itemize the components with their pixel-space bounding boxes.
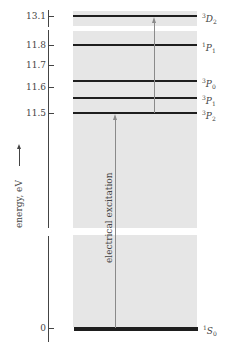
panel-bottom-section <box>73 235 197 327</box>
upper-transition-arrow-head-icon <box>152 17 156 23</box>
level-3P0 <box>73 80 197 82</box>
upper-transition-arrow-shaft <box>154 22 155 113</box>
energy-axis-bottom-segment <box>48 236 49 342</box>
level-label-3P2: 3P2 <box>202 108 216 124</box>
level-1P1 <box>73 44 197 46</box>
panel-middle-section <box>73 31 197 228</box>
tick-label-0: 0 <box>16 323 46 333</box>
tick-label-11-6: 11.6 <box>16 82 46 92</box>
energy-axis-middle-segment <box>48 30 49 228</box>
excitation-label: electrical excitation <box>104 172 114 263</box>
excitation-arrow-shaft <box>115 118 116 328</box>
tick-label-11-5: 11.5 <box>16 108 46 118</box>
level-3P1 <box>73 97 197 99</box>
tick-label-11-7: 11.7 <box>16 60 46 70</box>
level-1S0-ground <box>74 327 198 331</box>
level-label-1P1: 1P1 <box>202 40 216 56</box>
tick-11-6 <box>48 87 54 88</box>
tick-0 <box>48 328 54 329</box>
y-axis-arrow-shaft <box>19 148 20 166</box>
tick-11-7 <box>48 65 54 66</box>
y-axis-arrow-head-icon <box>17 144 21 149</box>
tick-11-5 <box>48 113 54 114</box>
level-3P2 <box>73 112 197 114</box>
level-label-3P0: 3P0 <box>202 76 216 92</box>
level-label-1S0: 1S0 <box>203 323 217 339</box>
level-label-3P1: 3P1 <box>202 93 216 109</box>
tick-13-1 <box>48 16 54 17</box>
level-label-3D2: 3D2 <box>202 11 217 27</box>
y-axis-label: energy, eV <box>14 180 24 228</box>
tick-label-11-8: 11.8 <box>16 40 46 50</box>
tick-label-13-1: 13.1 <box>16 11 46 21</box>
energy-axis-top-segment <box>48 10 49 27</box>
excitation-arrow-head-icon <box>113 114 117 120</box>
tick-11-8 <box>48 45 54 46</box>
level-3D2 <box>73 15 197 17</box>
panel-top-section <box>73 11 197 26</box>
